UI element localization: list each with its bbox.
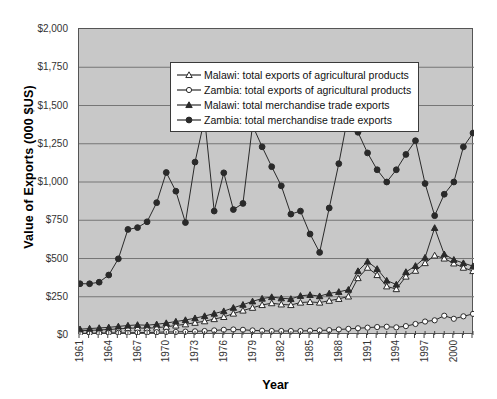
legend-label: Zambia: total merchandise trade exports bbox=[202, 114, 392, 126]
y-tick-label: $250 bbox=[14, 290, 68, 301]
data-point-filled-circle bbox=[259, 144, 265, 150]
data-point-filled-circle bbox=[365, 150, 371, 156]
data-point-filled-triangle bbox=[441, 251, 447, 257]
data-point-filled-circle bbox=[186, 117, 192, 123]
data-point-filled-circle bbox=[317, 249, 323, 255]
x-tick-label: 1994 bbox=[390, 340, 401, 362]
data-point-filled-circle bbox=[163, 170, 169, 176]
y-tick-label: $1,750 bbox=[14, 61, 68, 72]
x-axis-outer-ticks bbox=[78, 334, 473, 339]
x-tick-label: 1961 bbox=[74, 340, 85, 362]
data-point-filled-circle bbox=[96, 279, 102, 285]
data-point-filled-circle bbox=[144, 219, 150, 225]
data-point-open-triangle bbox=[345, 293, 351, 299]
x-tick-label: 1997 bbox=[419, 340, 430, 362]
legend-label: Malawi: total merchandise trade exports bbox=[202, 99, 390, 111]
data-point-filled-circle bbox=[461, 144, 467, 150]
data-point-open-circle bbox=[451, 316, 456, 321]
data-point-filled-triangle bbox=[431, 225, 437, 231]
legend-item: Malawi: total exports of agricultural pr… bbox=[176, 67, 411, 82]
data-point-open-circle bbox=[394, 325, 399, 330]
data-point-open-circle bbox=[403, 324, 408, 329]
data-point-open-circle bbox=[442, 313, 447, 318]
chart-legend: Malawi: total exports of agricultural pr… bbox=[170, 62, 419, 132]
y-axis-tick-labels: $2,000$1,750$1,500$1,250$1,000$750$500$2… bbox=[14, 0, 68, 399]
x-tick-label: 1973 bbox=[189, 340, 200, 362]
x-tick-label: 1976 bbox=[218, 340, 229, 362]
data-point-filled-circle bbox=[384, 179, 390, 185]
legend-item: Zambia: total exports of agricultural pr… bbox=[176, 82, 411, 97]
data-point-filled-triangle bbox=[451, 257, 457, 263]
data-point-open-circle bbox=[375, 324, 380, 329]
x-tick-label: 1979 bbox=[247, 340, 258, 362]
x-tick-label: 1991 bbox=[362, 340, 373, 362]
data-point-open-circle bbox=[422, 319, 427, 324]
data-point-open-circle bbox=[384, 324, 389, 329]
legend-marker-filled-triangle bbox=[176, 99, 202, 111]
y-tick-label: $1,500 bbox=[14, 99, 68, 110]
data-point-filled-circle bbox=[79, 281, 83, 287]
series-2 bbox=[79, 225, 474, 332]
legend-marker-filled-circle bbox=[176, 114, 202, 126]
data-point-filled-circle bbox=[326, 205, 332, 211]
data-point-open-circle bbox=[461, 314, 466, 319]
data-point-filled-circle bbox=[173, 188, 179, 194]
data-point-filled-circle bbox=[211, 208, 217, 214]
data-point-filled-circle bbox=[413, 138, 419, 144]
legend-label: Zambia: total exports of agricultural pr… bbox=[202, 84, 411, 96]
chart-figure: Value of Exports (000 $US) $2,000$1,750$… bbox=[0, 0, 497, 399]
data-point-filled-circle bbox=[470, 130, 474, 136]
data-point-filled-triangle bbox=[307, 292, 313, 298]
series-line bbox=[80, 228, 473, 329]
data-point-filled-circle bbox=[192, 159, 198, 165]
data-point-open-circle bbox=[346, 326, 351, 331]
data-point-open-circle bbox=[365, 325, 370, 330]
data-point-open-circle bbox=[413, 321, 418, 326]
y-tick-label: $1,250 bbox=[14, 137, 68, 148]
y-tick-label: $750 bbox=[14, 214, 68, 225]
data-point-filled-circle bbox=[278, 183, 284, 189]
x-tick-label: 1967 bbox=[132, 340, 143, 362]
data-point-filled-circle bbox=[106, 272, 112, 278]
data-point-filled-circle bbox=[115, 256, 121, 262]
y-tick-label: $500 bbox=[14, 252, 68, 263]
plot-area: Malawi: total exports of agricultural pr… bbox=[78, 28, 473, 334]
series-3 bbox=[79, 111, 474, 287]
x-tick-label: 1970 bbox=[160, 340, 171, 362]
data-point-filled-circle bbox=[221, 170, 227, 176]
data-point-filled-circle bbox=[230, 207, 236, 213]
data-point-open-circle bbox=[432, 318, 437, 323]
y-tick-label: $2,000 bbox=[14, 23, 68, 34]
clipped-header-text bbox=[40, 0, 460, 4]
data-point-filled-circle bbox=[125, 227, 131, 233]
data-point-filled-circle bbox=[298, 208, 304, 214]
x-tick-label: 1982 bbox=[275, 340, 286, 362]
legend-label: Malawi: total exports of agricultural pr… bbox=[202, 69, 409, 81]
data-point-open-triangle bbox=[269, 300, 275, 306]
legend-item: Malawi: total merchandise trade exports bbox=[176, 97, 411, 112]
data-point-open-circle bbox=[470, 311, 474, 316]
data-point-filled-circle bbox=[374, 167, 380, 173]
x-axis-tick-labels: 1961196419671970197319761979198219851988… bbox=[78, 336, 473, 380]
data-point-open-triangle bbox=[431, 252, 437, 258]
x-tick-label: 1988 bbox=[333, 340, 344, 362]
data-point-filled-circle bbox=[441, 191, 447, 197]
data-point-filled-circle bbox=[183, 220, 189, 226]
data-point-filled-circle bbox=[240, 201, 246, 207]
legend-item: Zambia: total merchandise trade exports bbox=[176, 112, 411, 127]
data-point-filled-triangle bbox=[403, 269, 409, 275]
data-point-open-circle bbox=[355, 326, 360, 331]
data-point-open-triangle bbox=[364, 264, 370, 270]
data-point-filled-triangle bbox=[364, 258, 370, 264]
data-point-filled-circle bbox=[393, 167, 399, 173]
y-tick-label: $0 bbox=[14, 329, 68, 340]
legend-marker-open-circle bbox=[176, 84, 202, 96]
legend-marker-open-triangle bbox=[176, 69, 202, 81]
data-point-filled-circle bbox=[135, 225, 141, 231]
x-axis-title: Year bbox=[78, 378, 473, 392]
data-point-filled-circle bbox=[269, 164, 275, 170]
data-point-filled-circle bbox=[307, 231, 313, 237]
x-tick-label: 1964 bbox=[103, 340, 114, 362]
x-tick-label: 2000 bbox=[448, 340, 459, 362]
data-point-filled-circle bbox=[87, 281, 93, 287]
